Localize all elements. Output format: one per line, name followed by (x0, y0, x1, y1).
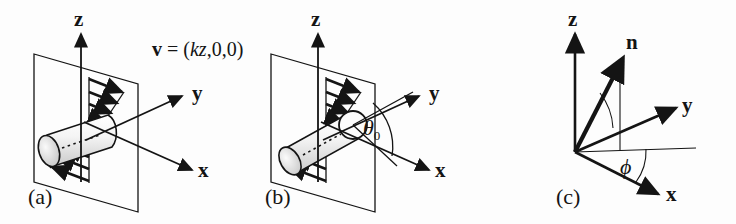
cylinder-rod (274, 111, 367, 179)
axis-label-x: x (198, 160, 209, 181)
axis-label-z: z (311, 9, 320, 30)
axis-label-y: y (682, 95, 693, 116)
axis-label-z: z (568, 9, 577, 30)
panel-label-c: (c) (556, 186, 580, 208)
cylinder-rod (35, 115, 117, 169)
angle-label-phi: ϕ (620, 156, 631, 178)
axis-label-x: x (666, 184, 677, 205)
panel-b: z y x θ0 (b) (245, 0, 480, 224)
axis-label-y: y (429, 83, 440, 104)
panel-label-b: (b) (265, 186, 291, 208)
panel-label-a: (a) (28, 186, 52, 208)
axis-label-z: z (74, 9, 83, 30)
director-label-n: n (626, 32, 638, 53)
theta-subscript: 0 (374, 128, 381, 143)
angle-label-theta-zero: θ0 (363, 117, 380, 142)
axis-label-x: x (435, 160, 446, 181)
panel-a: z y x (a) (0, 0, 245, 224)
director-vector (575, 62, 621, 152)
y-axis (575, 108, 676, 152)
axis-label-y: y (192, 83, 203, 104)
figure-canvas: v=(kz,0,0) (0, 0, 736, 224)
theta-symbol: θ (363, 115, 374, 140)
reference-line (575, 148, 696, 152)
panel-c-graphic (480, 0, 736, 224)
azimuthal-angle-arc (636, 149, 646, 182)
panel-c: z y x n ϕ (c) (480, 0, 736, 224)
